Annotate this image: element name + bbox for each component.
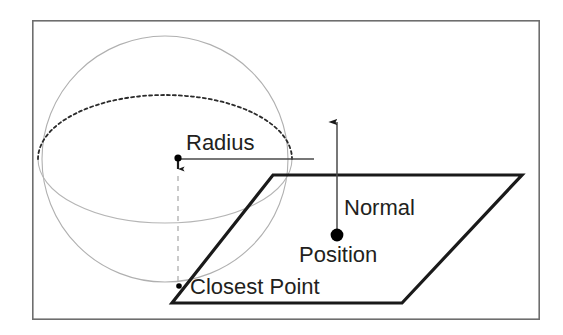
closest-point-dot — [176, 283, 182, 289]
sphere-center-dot — [174, 154, 181, 161]
label-radius: Radius — [186, 130, 254, 155]
sphere-plane-diagram: Radius Normal Position Closest Point — [0, 0, 563, 335]
label-closest-point: Closest Point — [190, 274, 320, 299]
label-normal: Normal — [344, 195, 415, 220]
label-position: Position — [299, 242, 377, 267]
position-dot — [331, 229, 344, 242]
diagram-canvas: Radius Normal Position Closest Point — [0, 0, 563, 335]
